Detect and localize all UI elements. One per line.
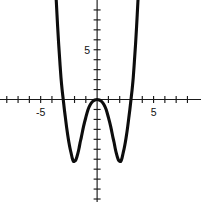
coordinate-plane: -55 5	[0, 0, 201, 202]
y-tick-label: 5	[84, 44, 90, 56]
x-axis-tick-labels: -55	[36, 106, 157, 118]
x-tick-label: -5	[36, 106, 45, 118]
x-tick-label: 5	[151, 106, 157, 118]
y-axis-tick-labels: 5	[84, 44, 90, 56]
graph-figure: -55 5	[0, 0, 201, 202]
